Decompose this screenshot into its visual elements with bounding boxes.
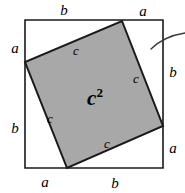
label-side-c-top: c bbox=[73, 44, 79, 57]
area-exponent: 2 bbox=[96, 85, 103, 100]
label-right-b: b bbox=[169, 65, 177, 80]
label-area-c-squared: c2 bbox=[87, 88, 103, 109]
label-side-c-right: c bbox=[133, 72, 139, 85]
label-left-b: b bbox=[11, 121, 19, 136]
geometry-figure: b a a b b a a b c c c c c2 bbox=[0, 0, 185, 193]
label-bottom-b: b bbox=[111, 176, 119, 191]
label-right-a: a bbox=[169, 141, 177, 156]
label-bottom-a: a bbox=[41, 175, 49, 190]
label-side-c-left: c bbox=[47, 112, 53, 125]
label-left-a: a bbox=[11, 41, 19, 56]
label-top-a: a bbox=[139, 4, 147, 19]
label-top-b: b bbox=[60, 3, 68, 18]
area-base: c bbox=[87, 86, 96, 110]
label-side-c-bottom: c bbox=[104, 137, 110, 150]
